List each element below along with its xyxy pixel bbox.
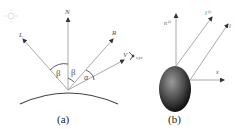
light-arrow [23, 39, 68, 90]
panel-b: n⁽ⁱ⁾ l⁽ⁱ⁾ l x (b) [159, 10, 231, 126]
surface-curve [20, 93, 118, 104]
eye-icon [129, 52, 134, 60]
label-beta-2: β [71, 67, 76, 77]
reflection-diagram: L N R V β β α eye (a) n⁽ⁱ⁾ l⁽ⁱ⁾ l x (b) [0, 0, 247, 129]
label-x: x [215, 69, 219, 75]
panel-a: L N R V β β α eye (a) [4, 8, 144, 126]
view-arrow [68, 60, 124, 90]
label-beta-1: β [56, 68, 61, 78]
label-l-i: l⁽ⁱ⁾ [205, 10, 211, 16]
label-N: N [64, 8, 70, 16]
sun-icon [4, 9, 18, 23]
beta-arc-right [68, 78, 74, 82]
caption-b: (b) [168, 113, 181, 126]
light-li-arrow [176, 17, 212, 66]
reflect-arrow [68, 39, 113, 90]
light-l-arrow [190, 24, 228, 80]
label-n: n⁽ⁱ⁾ [164, 20, 171, 26]
label-alpha: α [84, 73, 89, 82]
caption-a: (a) [57, 113, 70, 126]
label-eye: eye [136, 55, 144, 60]
ellipsoid [159, 66, 191, 112]
label-l: l [229, 23, 231, 29]
label-L: L [18, 31, 23, 39]
label-V: V [123, 51, 128, 59]
label-R: R [111, 29, 117, 37]
